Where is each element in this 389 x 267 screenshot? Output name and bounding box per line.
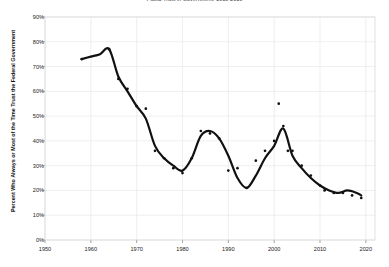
data-point — [360, 197, 363, 200]
data-point — [236, 167, 239, 170]
data-point — [117, 78, 120, 81]
data-point — [282, 125, 285, 128]
chart-figure: Public Trust in Government: 1958-2019 Pe… — [0, 0, 389, 267]
data-point — [135, 105, 138, 108]
data-point — [287, 149, 290, 152]
data-point — [80, 58, 83, 61]
data-point — [332, 192, 335, 195]
data-point — [209, 132, 212, 135]
data-point — [227, 169, 230, 172]
data-point — [181, 172, 184, 175]
data-point — [291, 149, 294, 152]
data-point — [218, 137, 221, 140]
plot-frame — [45, 17, 375, 240]
data-point — [323, 189, 326, 192]
data-point — [154, 149, 157, 152]
data-point — [351, 194, 354, 197]
data-point — [300, 164, 303, 167]
data-point — [172, 167, 175, 170]
data-point — [144, 107, 147, 110]
data-point — [199, 130, 202, 133]
data-point — [190, 157, 193, 160]
data-point — [108, 48, 111, 51]
data-point — [245, 187, 248, 190]
data-point — [264, 149, 267, 152]
data-point — [309, 174, 312, 177]
data-point — [126, 88, 129, 91]
data-point — [163, 157, 166, 160]
data-point — [319, 184, 322, 187]
data-point — [254, 159, 257, 162]
plot-canvas — [0, 0, 389, 267]
data-point — [273, 140, 276, 143]
trend-line — [82, 48, 362, 195]
data-point — [277, 102, 280, 105]
grid-lines — [45, 17, 375, 240]
data-point — [342, 192, 345, 195]
